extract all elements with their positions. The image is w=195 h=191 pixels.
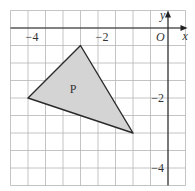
origin-label: O xyxy=(156,30,165,44)
x-axis-label: x xyxy=(182,29,189,43)
y-tick-label: −4 xyxy=(151,161,164,175)
y-tick-label: −2 xyxy=(151,91,164,105)
y-axis-arrow-icon xyxy=(165,11,171,18)
shape-label-p: P xyxy=(70,82,77,96)
x-tick-label: −4 xyxy=(26,30,39,44)
coordinate-diagram: x y O −4 −2 −2 −4 P xyxy=(0,0,195,191)
y-axis-label: y xyxy=(159,8,166,22)
x-tick-label: −2 xyxy=(96,30,109,44)
